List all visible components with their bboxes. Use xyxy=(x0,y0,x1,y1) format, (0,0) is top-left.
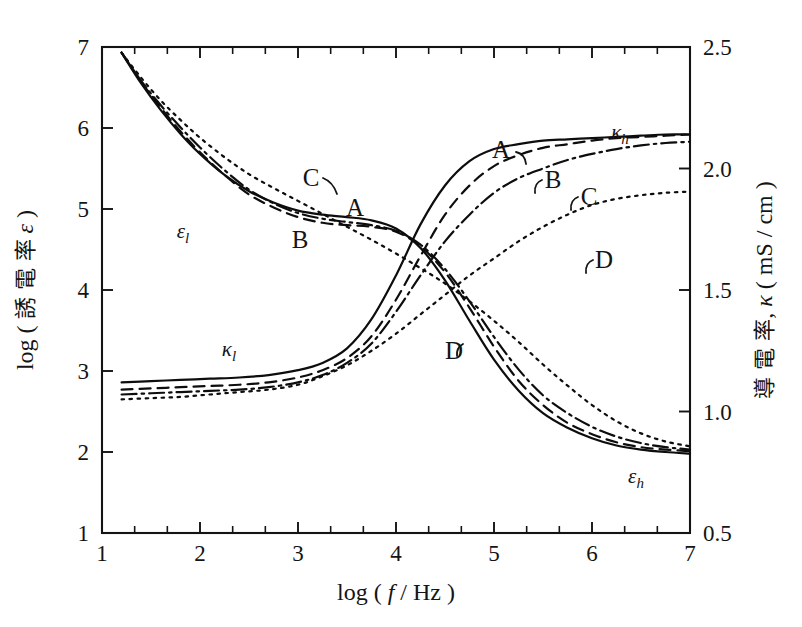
y-right-tick-label: 0.5 xyxy=(703,521,732,546)
x-axis-title: log ( f / Hz ) xyxy=(337,579,455,605)
y-left-tick-label: 4 xyxy=(78,278,90,303)
chart-figure: 123456712345670.51.01.52.02.5 εlεhκlκhAB… xyxy=(0,0,802,627)
y-left-tick-label: 5 xyxy=(78,197,90,222)
y-left-tick-label: 2 xyxy=(78,440,90,465)
annotation-D: D xyxy=(595,246,613,273)
y-left-tick-label: 7 xyxy=(78,35,90,60)
y-right-tick-label: 2.0 xyxy=(703,157,732,182)
x-tick-label: 4 xyxy=(390,541,402,566)
y-left-tick-label: 1 xyxy=(78,521,90,546)
chart-svg: 123456712345670.51.01.52.02.5 εlεhκlκhAB… xyxy=(0,0,802,627)
y-left-axis-title: log ( 誘 電 率 ε ) xyxy=(12,210,38,370)
annotation-B: B xyxy=(545,166,562,193)
y-right-axis-title: 導 電 率, κ ( mS / cm ) xyxy=(751,181,777,399)
x-tick-label: 1 xyxy=(96,541,108,566)
y-right-tick-label: 2.5 xyxy=(703,35,732,60)
y-left-tick-label: 3 xyxy=(78,359,90,384)
x-tick-label: 7 xyxy=(684,541,696,566)
annotation-A: A xyxy=(346,194,364,221)
x-tick-label: 3 xyxy=(292,541,304,566)
y-right-tick-label: 1.0 xyxy=(703,400,732,425)
y-right-tick-label: 1.5 xyxy=(703,278,732,303)
x-tick-label: 6 xyxy=(586,541,598,566)
annotation-B: B xyxy=(292,226,309,253)
y-left-tick-label: 6 xyxy=(78,116,90,141)
annotation-D: D xyxy=(445,337,463,364)
annotation-A: A xyxy=(492,136,510,163)
annotation-C: C xyxy=(303,164,320,191)
x-tick-label: 2 xyxy=(194,541,206,566)
annotation-C: C xyxy=(581,183,598,210)
x-tick-label: 5 xyxy=(488,541,500,566)
